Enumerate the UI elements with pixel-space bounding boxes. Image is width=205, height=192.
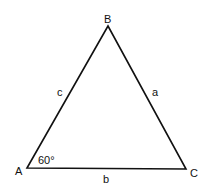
side-label-b: b (103, 173, 109, 185)
vertex-label-c: C (190, 167, 198, 179)
triangle-abc (27, 26, 186, 169)
triangle-diagram: B A C c a b 60° (0, 0, 205, 192)
side-label-c: c (57, 86, 63, 98)
side-label-a: a (152, 86, 159, 98)
vertex-label-b: B (104, 13, 111, 25)
angle-a-label: 60° (38, 154, 55, 166)
vertex-label-a: A (15, 165, 23, 177)
